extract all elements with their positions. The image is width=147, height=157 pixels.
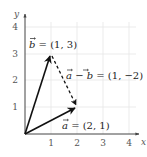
svg-text:a − b = (1, −2): a − b = (1, −2) [66,70,143,81]
label-vector-a: a = (2, 1) [62,119,110,131]
amb-value: = (1, −2) [93,70,143,81]
y-axis-label: y [13,9,20,19]
x-axis-label: x [141,137,146,147]
x-tick-3: 3 [100,138,106,148]
a-value: = (2, 1) [68,120,110,131]
svg-text:b = (1, 3): b = (1, 3) [29,39,77,50]
label-vector-b: b = (1, 3) [29,38,77,51]
y-tick-2: 2 [12,75,18,85]
svg-text:a = (2, 1): a = (2, 1) [62,120,110,131]
vector-diagram: x y 1 2 3 4 1 2 3 4 b = (1, 3) a − b = (… [0,0,147,157]
b-value: = (1, 3) [35,39,77,50]
x-tick-2: 2 [74,138,80,148]
y-tick-4: 4 [12,22,18,32]
label-vector-a-minus-b: a − b = (1, −2) [66,69,143,81]
y-tick-3: 3 [12,49,18,59]
y-tick-1: 1 [12,102,18,112]
amb-minus: − [72,70,87,81]
x-tick-1: 1 [48,138,54,148]
x-tick-4: 4 [126,138,132,148]
